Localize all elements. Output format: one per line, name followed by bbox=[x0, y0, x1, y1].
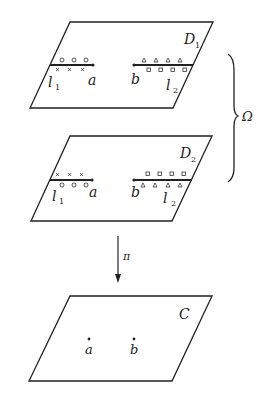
cut-l1-subscript-d1: 1 bbox=[55, 83, 60, 92]
omega-label: Ω bbox=[241, 109, 253, 124]
base-point-b bbox=[133, 338, 136, 341]
cross-marks-above-l1-d2 bbox=[56, 173, 83, 176]
point-b-label-d1: b bbox=[131, 71, 140, 87]
branch-point-b-d2 bbox=[132, 178, 135, 181]
cut-l2-subscript-d1: 2 bbox=[173, 86, 178, 95]
point-a-label-d2: a bbox=[89, 184, 97, 200]
sheet-d2: D 2 l 1 a bbox=[31, 136, 212, 221]
cut-l2-subscript-d2: 2 bbox=[171, 199, 176, 208]
point-a-label-d1: a bbox=[88, 72, 96, 88]
sheet-d1-label: D bbox=[183, 31, 195, 47]
triangle-marks-above-l2-d1 bbox=[142, 58, 182, 62]
riemann-surface-diagram: D 1 l 1 a bbox=[0, 0, 263, 406]
cut-l1-label-d1: l bbox=[48, 74, 52, 90]
cut-l2-label-d2: l bbox=[163, 190, 167, 206]
circle-marks-above-l1-d1 bbox=[60, 58, 88, 62]
arrow-head-icon bbox=[115, 274, 121, 283]
square-marks-above-l2-d2 bbox=[146, 172, 186, 176]
base-point-a bbox=[88, 338, 91, 341]
branch-point-a-d1 bbox=[91, 63, 94, 66]
branch-point-b-d1 bbox=[132, 63, 135, 66]
cut-l1-label-d2: l bbox=[52, 188, 56, 204]
point-b-label-d2: b bbox=[131, 184, 140, 200]
cut-l1-subscript-d2: 1 bbox=[59, 197, 64, 206]
pi-label: π bbox=[122, 250, 131, 263]
sheet-d2-label: D bbox=[179, 145, 191, 161]
sheet-d2-subscript: 2 bbox=[191, 155, 196, 164]
omega-brace: Ω bbox=[228, 54, 253, 182]
projection-arrow: π bbox=[115, 236, 131, 283]
sheet-d1: D 1 l 1 a bbox=[30, 22, 213, 108]
triangle-marks-below-l2-d2 bbox=[141, 183, 182, 187]
base-plane-label: C bbox=[179, 306, 190, 322]
square-marks-below-l2-d1 bbox=[147, 68, 187, 72]
circle-marks-below-l1-d2 bbox=[60, 183, 88, 187]
cut-l2-label-d1: l bbox=[166, 77, 170, 93]
cross-marks-below-l1-d1 bbox=[56, 68, 84, 71]
base-point-a-label: a bbox=[85, 342, 93, 357]
branch-point-a-d2 bbox=[90, 178, 93, 181]
curly-brace bbox=[228, 54, 238, 182]
base-plane-c: C a b bbox=[29, 296, 212, 381]
base-point-b-label: b bbox=[130, 342, 138, 357]
sheet-d1-subscript: 1 bbox=[195, 41, 200, 50]
